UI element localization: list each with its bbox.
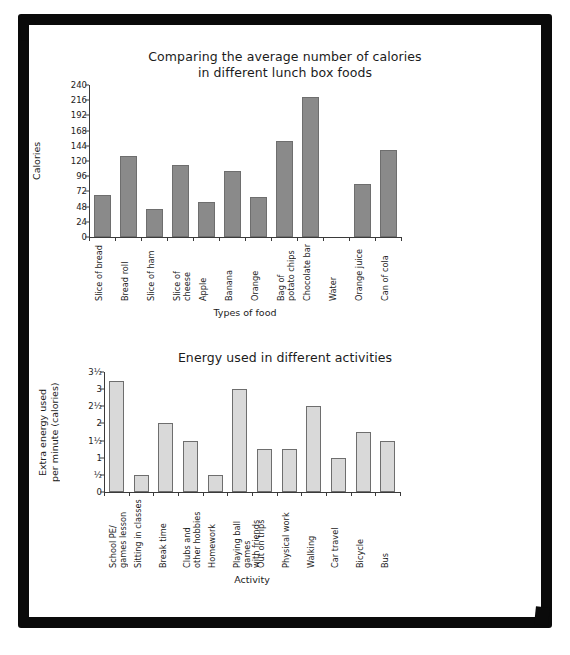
- x-category-label: Bus: [381, 498, 391, 568]
- chart-2-title-line-1: Energy used in different activities: [29, 350, 541, 366]
- chart-2-title: Energy used in different activities: [29, 350, 541, 366]
- x-category-label: Slice of ham: [147, 243, 157, 301]
- plot-2-x-tick-mark: [252, 492, 253, 496]
- chart-energy-activities: Energy used in different activities Extr…: [29, 350, 541, 612]
- plot-2-x-tick-mark: [129, 492, 130, 496]
- plot-1-x-tick-mark: [245, 237, 246, 241]
- plot-2-x-tick-mark: [277, 492, 278, 496]
- bar: [302, 97, 319, 237]
- x-category-label: Clubs and other hobbies: [183, 498, 202, 568]
- plot-1-x-tick-mark: [271, 237, 272, 241]
- plot-1-x-tick-mark: [323, 237, 324, 241]
- plot-2-x-axis-label: Activity: [104, 574, 400, 585]
- bar: [354, 184, 371, 237]
- plot-1-y-tick-label: 48: [45, 202, 90, 212]
- plot-2-x-tick-mark: [301, 492, 302, 496]
- chart-1-title-line-2: in different lunch box foods: [29, 65, 541, 81]
- bar: [380, 441, 395, 492]
- plot-2-x-tick-mark: [375, 492, 376, 496]
- bar: [356, 432, 371, 492]
- chart-lunch-box-calories: Comparing the average number of calories…: [29, 49, 541, 349]
- bar: [331, 458, 346, 492]
- plot-2-y-tick-label: 3: [51, 384, 105, 394]
- bar: [282, 449, 297, 492]
- x-category-label: Sitting in classes: [134, 498, 144, 568]
- plot-2-x-tick-mark: [203, 492, 204, 496]
- plot-1-x-tick-mark: [141, 237, 142, 241]
- plot-1-x-tick-mark: [115, 237, 116, 241]
- bar: [232, 389, 247, 492]
- bar: [224, 171, 241, 238]
- x-category-label: Bread roll: [121, 243, 131, 301]
- plot-1-x-tick-mark: [401, 237, 402, 241]
- x-category-label: Break time: [159, 498, 169, 568]
- plot-2-y-tick-label: 2½: [51, 401, 105, 411]
- bar: [134, 475, 149, 492]
- content-area: Comparing the average number of calories…: [29, 25, 541, 617]
- plot-2-x-tick-mark: [400, 492, 401, 496]
- x-category-label: Apple: [199, 243, 209, 301]
- plot-2-y-tick-label: 0: [51, 487, 105, 497]
- plot-1-y-tick-label: 216: [45, 95, 90, 105]
- chart-1-title-line-1: Comparing the average number of calories: [29, 49, 541, 65]
- x-category-label: Slice of cheese: [173, 243, 192, 301]
- plot-1-y-tick-label: 24: [45, 217, 90, 227]
- plot-2-x-tick-mark: [351, 492, 352, 496]
- x-category-label: Water: [329, 243, 339, 301]
- plot-1-y-tick-label: 72: [45, 186, 90, 196]
- plot-1-y-tick-label: 192: [45, 110, 90, 120]
- plot-1-y-tick-label: 168: [45, 126, 90, 136]
- x-category-label: Chocolate bar: [303, 243, 313, 301]
- bar: [120, 156, 137, 237]
- plot-1-x-axis-label: Types of food: [89, 307, 401, 318]
- plot-1-x-tick-mark: [297, 237, 298, 241]
- plot-1-x-tick-mark: [167, 237, 168, 241]
- plot-2-x-tick-mark: [178, 492, 179, 496]
- plot-1-y-tick-label: 144: [45, 141, 90, 151]
- x-category-label: Slice of bread: [95, 243, 105, 301]
- x-category-label: Bag of potato chips: [277, 243, 296, 301]
- chart-2-plot-area: Extra energy used per minute (calories)0…: [29, 366, 541, 596]
- plot-2-x-tick-mark: [104, 492, 105, 496]
- plot-2-y-tick-label: ½: [51, 470, 105, 480]
- x-category-label: Walking: [307, 498, 317, 568]
- x-category-label: School PE/ games lesson: [109, 498, 128, 568]
- x-category-label: Bicycle: [356, 498, 366, 568]
- bar: [306, 406, 321, 492]
- plot-1-x-tick-mark: [219, 237, 220, 241]
- bar: [172, 165, 189, 237]
- x-category-label: Homework: [208, 498, 218, 568]
- x-category-label: Physical work: [282, 498, 292, 568]
- bar: [250, 197, 267, 237]
- plot-2-x-tick-mark: [326, 492, 327, 496]
- plot-2-y-tick-label: 2: [51, 418, 105, 428]
- plot-2-y-axis-line: [104, 372, 105, 492]
- chart-1-title: Comparing the average number of calories…: [29, 49, 541, 81]
- plot-1-y-tick-label: 120: [45, 156, 90, 166]
- x-category-label: Orange: [251, 243, 261, 301]
- plot-1-x-tick-mark: [375, 237, 376, 241]
- x-category-label: Can of cola: [381, 243, 391, 301]
- x-category-label: Car travel: [331, 498, 341, 568]
- plot-1-x-tick-mark: [193, 237, 194, 241]
- bar: [380, 150, 397, 237]
- chart-1-plot-area: Calories024487296120144168192216240Slice…: [29, 81, 541, 331]
- bar: [94, 195, 111, 237]
- plot-1-y-tick-label: 96: [45, 171, 90, 181]
- bar: [208, 475, 223, 492]
- bar: [109, 381, 124, 492]
- plot-2-x-tick-mark: [227, 492, 228, 496]
- x-category-label: Out on trips: [257, 498, 267, 568]
- plot-1-y-tick-label: 240: [45, 80, 90, 90]
- bar: [183, 441, 198, 492]
- plot-1-y-axis-label: Calories: [31, 85, 43, 237]
- plot-1-x-tick-mark: [89, 237, 90, 241]
- x-category-label: Banana: [225, 243, 235, 301]
- bar: [146, 209, 163, 238]
- bar: [276, 141, 293, 237]
- plot-2-x-tick-mark: [153, 492, 154, 496]
- bar: [158, 423, 173, 492]
- x-category-label: Orange juice: [355, 243, 365, 301]
- plot-2-y-tick-label: 3½: [51, 367, 105, 377]
- plot-1-y-axis-line: [89, 85, 90, 237]
